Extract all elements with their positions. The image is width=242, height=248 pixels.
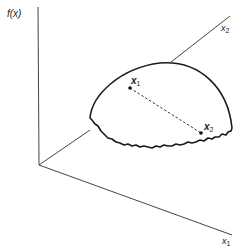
x2-axis-lower <box>39 130 90 165</box>
f-axis-label: f(x) <box>7 8 21 19</box>
x1-axis <box>39 165 232 235</box>
convex-function-diagram: f(x) x2 x1 x1 x2 <box>0 0 242 248</box>
x2-axis-label: x2 <box>220 23 230 34</box>
point-x1 <box>128 86 132 90</box>
function-surface <box>90 63 232 148</box>
dashed-chord <box>130 88 201 133</box>
point-x2 <box>199 131 203 135</box>
f-axis <box>38 7 39 165</box>
x1-axis-label: x1 <box>221 236 231 247</box>
point-x2-label: x2 <box>203 121 214 133</box>
point-x1-label: x1 <box>130 75 141 87</box>
